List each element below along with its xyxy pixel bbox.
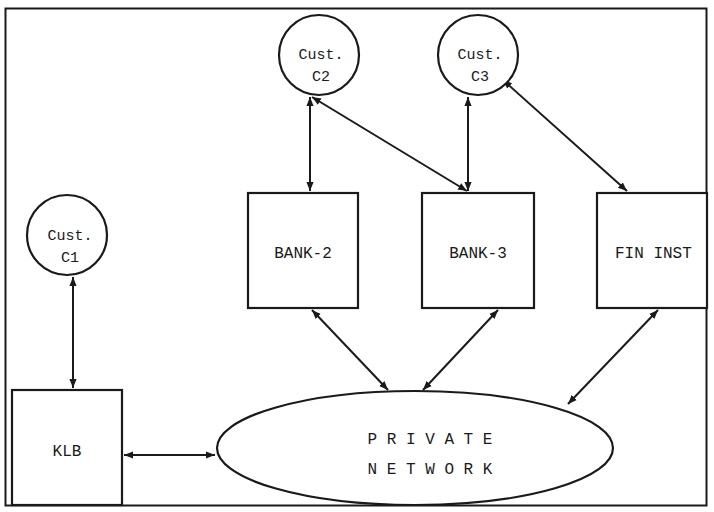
connector-c3-fininst [503, 80, 627, 191]
klb-node: KLB [12, 390, 122, 505]
connector-bank2-network [312, 310, 388, 390]
customer-id: C3 [471, 69, 489, 86]
customer-label: Cust. [47, 228, 92, 245]
klb-label: KLB [53, 443, 82, 461]
network-diagram: Cust. C2 Cust. C3 Cust. C1 BANK-2 BANK-3… [0, 0, 714, 512]
bank3-node: BANK-3 [422, 193, 534, 308]
connector-bank3-network [423, 310, 498, 390]
fininst-node: FIN INST [597, 193, 707, 308]
network-label-line2: N E T W O R K [368, 461, 493, 479]
connector-fininst-network [568, 310, 658, 404]
private-network-node: P R I V A T E N E T W O R K [217, 391, 613, 505]
customer-node-c1: Cust. C1 [27, 195, 107, 275]
customer-node-c2: Cust. C2 [279, 15, 359, 95]
customer-label: Cust. [298, 47, 343, 64]
network-label-line1: P R I V A T E [368, 431, 493, 449]
connector-c2-bank3 [312, 97, 467, 191]
fininst-label: FIN INST [615, 245, 692, 263]
customer-id: C1 [61, 250, 79, 267]
customer-id: C2 [312, 69, 330, 86]
bank3-label: BANK-3 [449, 245, 507, 263]
bank2-label: BANK-2 [274, 245, 332, 263]
bank2-node: BANK-2 [248, 193, 358, 308]
customer-node-c3: Cust. C3 [438, 15, 518, 95]
customer-label: Cust. [457, 47, 502, 64]
